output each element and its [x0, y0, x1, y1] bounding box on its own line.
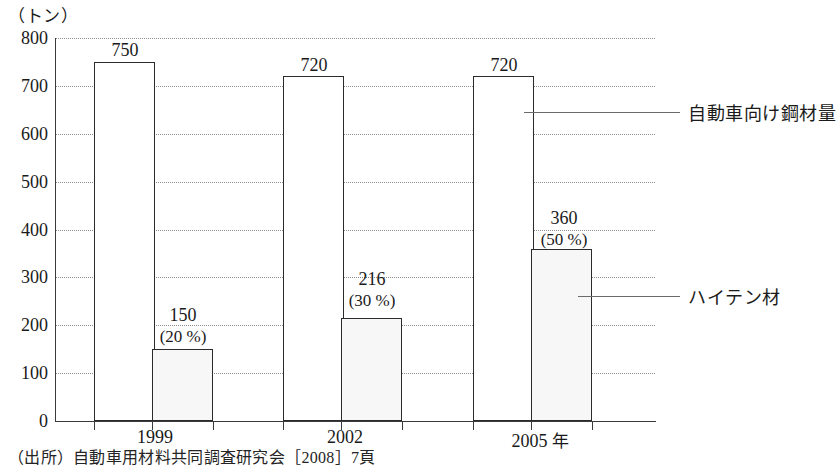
y-tick-500: 500 [2, 173, 48, 191]
value-label-hiten-1999-percent: (20 %) [160, 326, 207, 347]
legend-leader-hiten [578, 296, 680, 297]
bar-total-2005[interactable] [473, 76, 534, 421]
bar-hiten-2005[interactable] [531, 249, 592, 421]
x-axis-line [55, 421, 656, 422]
value-label-total-1999: 750 [112, 40, 139, 61]
y-tick-200: 200 [2, 316, 48, 334]
x-tick-6 [402, 421, 403, 430]
gridline-800 [55, 38, 655, 39]
y-axis-line [55, 38, 56, 422]
bar-hiten-2002[interactable] [341, 318, 402, 421]
value-label-hiten-1999-value: 150 [169, 305, 196, 325]
value-label-hiten-2002: 216 (30 %) [349, 269, 396, 311]
bar-total-2002[interactable] [283, 76, 344, 421]
legend-leader-total [524, 112, 680, 113]
y-tick-0: 0 [2, 412, 48, 430]
value-label-total-2005: 720 [491, 55, 518, 76]
y-axis-unit-label: （トン） [8, 2, 78, 27]
x-tick-7 [473, 421, 474, 430]
value-label-hiten-2002-percent: (30 %) [349, 290, 396, 311]
value-label-hiten-2005-value: 360 [550, 208, 577, 228]
y-tick-600: 600 [2, 125, 48, 143]
x-tick-3 [213, 421, 214, 430]
y-tick-700: 700 [2, 77, 48, 95]
x-tick-1 [94, 421, 95, 430]
bar-hiten-1999[interactable] [152, 349, 213, 421]
value-label-hiten-2005-percent: (50 %) [541, 229, 588, 250]
y-tick-400: 400 [2, 221, 48, 239]
value-label-total-2002: 720 [301, 55, 328, 76]
bar-total-1999[interactable] [94, 62, 155, 421]
y-tick-100: 100 [2, 364, 48, 382]
value-label-hiten-1999: 150 (20 %) [160, 305, 207, 347]
value-label-hiten-2002-value: 216 [358, 269, 385, 289]
y-axis-tick-labels: 800 700 600 500 400 300 200 100 0 [0, 38, 48, 421]
y-tick-800: 800 [2, 29, 48, 47]
y-tick-300: 300 [2, 268, 48, 286]
legend-label-hiten: ハイテン材 [688, 283, 781, 309]
value-label-hiten-2005: 360 (50 %) [541, 208, 588, 250]
source-note: （出所）自動車用材料共同調査研究会［2008］7頁 [8, 444, 376, 468]
x-label-2005: 2005年 [512, 427, 569, 452]
x-label-2005-year: 2005 [512, 431, 548, 451]
legend-label-total: 自動車向け鋼材量 [688, 99, 836, 125]
x-tick-4 [283, 421, 284, 430]
x-tick-9 [592, 421, 593, 430]
x-label-2005-unit: 年 [552, 432, 569, 451]
